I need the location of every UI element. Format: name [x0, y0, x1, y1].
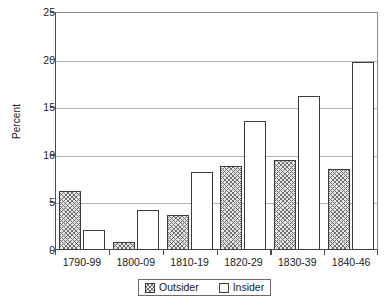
x-tick-mark — [377, 250, 378, 255]
x-tick-label: 1810-19 — [163, 256, 217, 268]
x-tick-label: 1800-09 — [109, 256, 163, 268]
chart-legend: OutsiderInsider — [138, 279, 271, 296]
bar-group — [55, 12, 109, 250]
x-tick-mark — [163, 250, 164, 255]
bar-insider-1810-19 — [191, 172, 213, 250]
bar-insider-1790-99 — [83, 230, 105, 250]
x-tick-label: 1830-39 — [270, 256, 324, 268]
bar-outsider-1790-99 — [59, 191, 81, 250]
y-tick-label: 5 — [9, 197, 55, 207]
bar-chart: Percent 0510152025 1790-991800-091810-19… — [0, 0, 392, 306]
y-axis-ticks: 0510152025 — [0, 12, 55, 250]
bar-group — [109, 12, 163, 250]
x-tick-mark — [324, 250, 325, 255]
bar-insider-1840-46 — [352, 62, 374, 250]
y-tick-label: 0 — [9, 245, 55, 255]
y-tick-label: 20 — [9, 55, 55, 65]
legend-entry-outsider: Outsider — [145, 282, 199, 293]
x-tick-mark — [270, 250, 271, 255]
y-tick-label: 25 — [9, 7, 55, 17]
hatched-swatch — [145, 283, 155, 293]
bar-group — [217, 12, 271, 250]
x-tick-label: 1840-46 — [324, 256, 378, 268]
x-tick-label: 1820-29 — [217, 256, 271, 268]
bar-outsider-1810-19 — [167, 215, 189, 250]
y-tick-label: 10 — [9, 150, 55, 160]
x-tick-label: 1790-99 — [55, 256, 109, 268]
open-swatch — [219, 283, 229, 293]
bar-insider-1820-29 — [244, 121, 266, 250]
bar-outsider-1830-39 — [274, 160, 296, 250]
x-tick-mark — [109, 250, 110, 255]
legend-label: Outsider — [159, 282, 199, 293]
legend-entry-insider: Insider — [219, 282, 265, 293]
bar-groups — [55, 12, 378, 250]
y-tick-label: 15 — [9, 102, 55, 112]
bar-group — [270, 12, 324, 250]
bar-insider-1830-39 — [298, 96, 320, 250]
bar-insider-1800-09 — [137, 210, 159, 250]
x-tick-mark — [55, 250, 56, 255]
legend-label: Insider — [233, 282, 265, 293]
bar-outsider-1840-46 — [328, 169, 350, 250]
x-tick-mark — [217, 250, 218, 255]
bar-outsider-1820-29 — [220, 166, 242, 250]
bar-group — [163, 12, 217, 250]
bar-group — [324, 12, 378, 250]
x-axis-labels: 1790-991800-091810-191820-291830-391840-… — [55, 256, 378, 272]
bar-outsider-1800-09 — [113, 242, 135, 250]
